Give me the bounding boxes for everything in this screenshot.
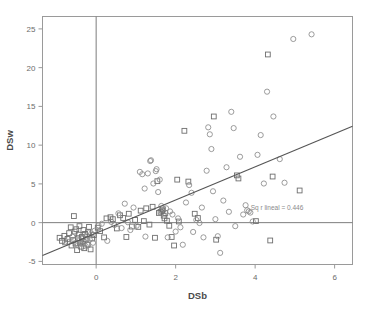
y-tick-label: 20: [27, 64, 36, 73]
scatterplot-figure: 0246 -50510152025 DSb DSw Sq r lineal = …: [0, 0, 370, 312]
y-axis-ticks: -50510152025: [27, 25, 43, 267]
y-tick-label: -5: [28, 257, 36, 266]
x-tick-label: 0: [94, 273, 99, 282]
y-axis-title: DSw: [4, 130, 15, 151]
plot-frame: [43, 17, 353, 265]
y-tick-label: 5: [31, 180, 36, 189]
x-tick-label: 2: [173, 273, 178, 282]
x-tick-label: 6: [332, 273, 337, 282]
plot-canvas: 0246 -50510152025 DSb DSw Sq r lineal = …: [0, 0, 370, 312]
y-tick-label: 10: [27, 141, 36, 150]
y-tick-label: 15: [27, 102, 36, 111]
x-tick-label: 4: [253, 273, 258, 282]
x-axis-title: DSb: [188, 290, 207, 301]
y-tick-label: 25: [27, 25, 36, 34]
r-squared-annotation: Sq r lineal = 0.446: [251, 204, 304, 212]
plot-area-border: [43, 17, 353, 265]
y-tick-label: 0: [31, 219, 36, 228]
x-axis-ticks: 0246: [94, 265, 337, 282]
